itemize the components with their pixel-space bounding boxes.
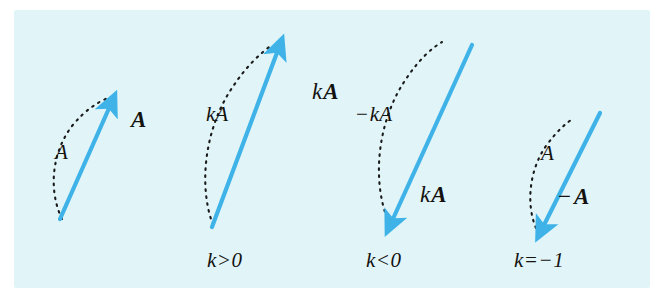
- panel-k-negative-magnitude-ka: kA: [370, 102, 392, 126]
- panel-k-negative-vector-label-k: k: [420, 182, 430, 207]
- panel-a-vector-label: A: [131, 108, 146, 131]
- panel-k-positive-vector-arrow: [212, 50, 278, 227]
- panel-minus-one-vector-a: A: [573, 184, 589, 209]
- panel-k-negative-magnitude-minus: −: [356, 102, 370, 126]
- panel-minus-one-vector-arrow: [543, 113, 600, 227]
- panel-minus-one-caption: k=−1: [514, 250, 564, 271]
- panel-k-positive-vector-label-a: A: [322, 79, 338, 104]
- vector-scalar-multiplication-figure: A A kA kA k>0 −kA kA k<0 A −A k=−1: [0, 0, 659, 298]
- panel-k-negative-vector-label: kA: [420, 183, 447, 206]
- panel-k-negative-vector-label-a: A: [430, 182, 446, 207]
- panel-minus-one-group: [530, 113, 600, 228]
- panel-minus-one-magnitude-label: A: [541, 143, 554, 164]
- panel-minus-one-vector-label: −A: [558, 185, 589, 208]
- panel-k-positive-vector-label-k: k: [312, 79, 322, 104]
- panel-k-positive-caption: k>0: [207, 250, 243, 271]
- panel-k-negative-magnitude-label: −kA: [356, 104, 392, 125]
- panel-k-positive-vector-label: kA: [312, 80, 339, 103]
- panel-k-positive-group: [205, 45, 278, 227]
- panel-minus-one-vector-minus: −: [558, 184, 573, 209]
- panel-k-positive-dashed-magnitude-arc: [205, 45, 272, 225]
- panel-a-magnitude-label: A: [55, 142, 68, 163]
- panel-k-negative-caption: k<0: [366, 250, 402, 271]
- panel-k-positive-magnitude-label: kA: [206, 104, 228, 125]
